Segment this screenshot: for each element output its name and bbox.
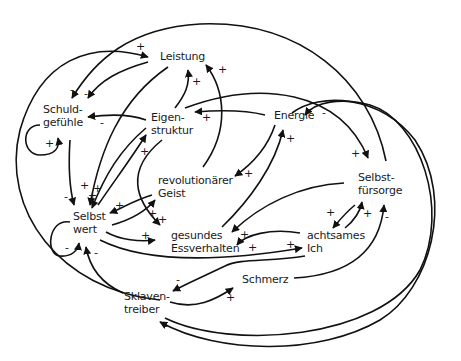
edge-schuldgefuehle-selbstwert <box>69 140 74 205</box>
node-sklaventreiber-label-2: treiber <box>124 303 170 316</box>
edge-selbstfuersorge-achtsamesich <box>333 205 355 228</box>
node-leistung: Leistung <box>160 50 205 63</box>
polarity-sign: + <box>141 230 150 241</box>
node-schuldgefuehle: Schuld-gefühle <box>43 103 83 129</box>
node-selbstfuersorge-label-1: Selbst- <box>358 171 402 184</box>
polarity-sign: + <box>351 148 360 159</box>
edge-energie-revgeist <box>235 125 275 176</box>
polarity-sign: + <box>240 229 249 240</box>
polarity-sign: - <box>94 247 98 258</box>
polarity-sign: - <box>322 107 326 118</box>
edge-selbstfuersorge-sklaventreiber <box>160 100 435 346</box>
polarity-sign: - <box>385 211 389 222</box>
node-sklaventreiber-label-1: Sklaven- <box>124 290 170 303</box>
edge-sklaventreiber-energie <box>165 101 432 335</box>
node-gesundes-essverhalten-label-1: gesundes <box>171 229 239 242</box>
polarity-sign: - <box>64 191 68 202</box>
polarity-sign: + <box>248 242 257 253</box>
polarity-sign: + <box>286 239 295 250</box>
polarity-sign: + <box>226 292 235 303</box>
node-selbstfuersorge: Selbst-fürsorge <box>358 171 402 197</box>
node-revolutionaerer-geist-label-2: Geist <box>158 187 233 200</box>
node-gesundes-essverhalten: gesundesEssverhalten <box>171 229 239 255</box>
node-selbstwert: Selbstwert <box>73 210 106 236</box>
node-eigenstruktur-label-2: struktur <box>151 124 193 137</box>
node-schuldgefuehle-label-2: gefühle <box>43 116 83 129</box>
edge-sklaventreiber-schmerz <box>170 288 233 305</box>
polarity-sign: + <box>363 208 372 219</box>
polarity-sign: + <box>158 214 167 225</box>
node-achtsames-ich: achtsamesIch <box>307 229 365 255</box>
polarity-sign: + <box>244 168 253 179</box>
node-achtsames-ich-label-2: Ich <box>307 242 365 255</box>
edge-selbstfuersorge-schuldgefuehle <box>72 24 386 161</box>
node-schmerz-label: Schmerz <box>242 273 288 286</box>
polarity-sign: + <box>45 138 54 149</box>
node-revolutionaerer-geist: revolutionärerGeist <box>158 174 233 200</box>
causal-loop-diagram: Leistung Schuld-gefühle Eigen-struktur E… <box>0 0 461 361</box>
edge-eigenstruktur-selbstwert <box>92 128 146 208</box>
node-energie-label: Energie <box>274 109 314 122</box>
polarity-sign: - <box>164 320 168 331</box>
node-schuldgefuehle-label-1: Schuld- <box>43 103 83 116</box>
polarity-sign: + <box>88 190 97 201</box>
node-eigenstruktur: Eigen-struktur <box>151 111 193 137</box>
node-selbstwert-label-2: wert <box>73 223 106 236</box>
node-eigenstruktur-label-1: Eigen- <box>151 111 193 124</box>
node-leistung-label: Leistung <box>160 50 205 63</box>
node-selbstwert-label-1: Selbst <box>73 210 106 223</box>
polarity-sign: - <box>100 117 104 128</box>
edge-eigenstruktur-schuldgefuehle <box>88 115 146 120</box>
polarity-sign: - <box>65 242 69 253</box>
polarity-sign: + <box>140 146 149 157</box>
polarity-sign: - <box>70 84 74 95</box>
polarity-sign: + <box>218 64 227 75</box>
node-selbstfuersorge-label-2: fürsorge <box>358 184 402 197</box>
node-achtsames-ich-label-1: achtsames <box>307 229 365 242</box>
polarity-sign: - <box>84 88 88 99</box>
polarity-sign: + <box>326 207 335 218</box>
polarity-sign: + <box>192 76 201 87</box>
polarity-sign: + <box>136 41 145 52</box>
polarity-sign: + <box>286 133 295 144</box>
node-revolutionaerer-geist-label-1: revolutionärer <box>158 174 233 187</box>
node-sklaventreiber: Sklaven-treiber <box>124 290 170 316</box>
edge-eigenstruktur-leistung <box>175 70 188 108</box>
node-energie: Energie <box>274 109 314 122</box>
node-schmerz: Schmerz <box>242 273 288 286</box>
polarity-sign: - <box>176 274 180 285</box>
polarity-sign: + <box>148 208 157 219</box>
polarity-sign: + <box>115 200 124 211</box>
polarity-sign: + <box>202 112 211 123</box>
node-gesundes-essverhalten-label-2: Essverhalten <box>171 242 239 255</box>
